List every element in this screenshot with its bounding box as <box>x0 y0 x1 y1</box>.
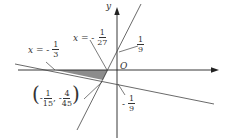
vertical-marker-label-2: x = - 1 27 <box>73 29 107 47</box>
origin-label: O <box>120 62 127 71</box>
marker-sign: - <box>46 45 49 55</box>
right-paren: ) <box>72 82 80 106</box>
marker-sign: - <box>91 33 94 43</box>
numerator: 1 <box>128 95 135 104</box>
separator: , <box>53 93 56 103</box>
y-axis-label: y <box>106 2 111 11</box>
y-intercept-label-neg: - 1 9 <box>122 95 135 113</box>
denominator: 9 <box>129 104 134 113</box>
denominator: 15 <box>43 99 53 108</box>
denominator: 45 <box>62 99 72 108</box>
denominator: 27 <box>97 38 107 47</box>
denominator: 9 <box>138 45 143 54</box>
fraction: 1 3 <box>52 41 59 59</box>
numerator: 1 <box>52 41 59 50</box>
leader-y-intercept-pos <box>119 46 138 52</box>
fraction: 1 9 <box>137 36 144 54</box>
fraction: 1 27 <box>97 29 107 47</box>
leader-intersection <box>84 82 102 99</box>
diagram-graphics <box>0 0 228 139</box>
leader-x-minus-third <box>46 62 55 70</box>
denominator: 3 <box>53 50 58 59</box>
y-fraction: 4 45 <box>62 90 72 108</box>
numerator: 1 <box>99 29 106 38</box>
sign: - <box>122 99 125 109</box>
marker-prefix: x = <box>73 33 91 43</box>
y-axis-arrow-icon <box>114 7 119 15</box>
coordinate-diagram: y O x = - 1 3 x = - 1 27 1 9 - 1 9 (- 1 <box>0 0 228 139</box>
x-axis-arrow-icon <box>211 67 219 72</box>
numerator: 1 <box>137 36 144 45</box>
y-intercept-label-pos: 1 9 <box>137 36 144 54</box>
intersection-point-label: (- 1 15 , - 4 45 ) <box>32 84 80 108</box>
x-fraction: 1 15 <box>43 90 53 108</box>
numerator: 1 <box>44 90 51 99</box>
left-paren: ( <box>32 82 40 106</box>
fraction: 1 9 <box>128 95 135 113</box>
shaded-region <box>55 70 108 80</box>
marker-prefix: x = <box>28 45 46 55</box>
numerator: 4 <box>63 90 70 99</box>
vertical-marker-label-1: x = - 1 3 <box>28 41 59 59</box>
